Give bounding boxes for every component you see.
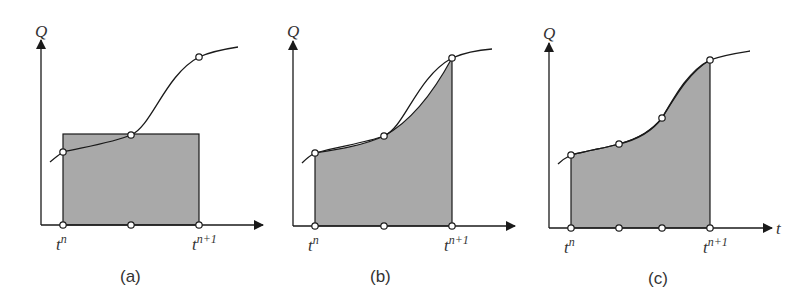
panel-c: Q t tn tn+1 (c) [543,24,782,288]
cubic-area [571,60,710,228]
y-axis-label: Q [35,22,47,41]
tick-tn1: tn+1 [703,235,728,257]
axis-point [616,225,622,231]
caption-a: (a) [120,267,141,286]
curve-point [196,54,202,60]
curve-point [659,115,665,121]
axis-point [381,223,387,229]
axis-point [449,223,455,229]
curve-point [128,132,134,138]
panel-a: Q tn tn+1 (a) [35,22,263,286]
y-axis-label: Q [543,24,555,43]
axis-point [659,225,665,231]
tick-tn: tn [56,232,67,254]
x-axis-label: t [776,219,782,238]
curve-point [449,55,455,61]
axis-point [128,222,134,228]
caption-b: (b) [370,267,391,286]
tick-tn: tn [308,233,319,255]
integration-diagram: Q tn tn+1 (a) Q tn tn+1 (b) Q t [0,0,812,306]
axis-point [196,222,202,228]
curve-point [707,57,713,63]
axis-point [568,225,574,231]
curve-point [568,152,574,158]
curve-point [616,141,622,147]
axis-point [707,225,713,231]
axis-point [312,223,318,229]
curve-point [312,150,318,156]
tick-tn1: tn+1 [444,233,469,255]
y-axis-label: Q [287,22,299,41]
curve-point [381,133,387,139]
tick-tn1: tn+1 [192,232,217,254]
curve-point [60,149,66,155]
panel-b: Q tn tn+1 (b) [287,22,515,286]
parabola-area [315,58,452,226]
caption-c: (c) [648,269,668,288]
axis-point [60,222,66,228]
tick-tn: tn [564,235,575,257]
